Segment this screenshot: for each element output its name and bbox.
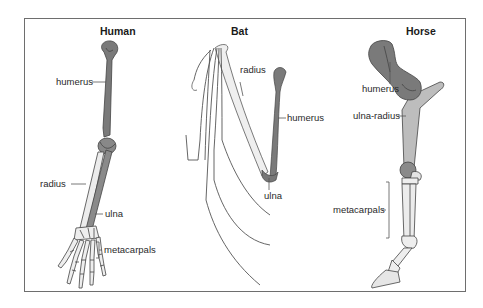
- bat-wing: [186, 45, 286, 285]
- forelimb-homology-illustration: [0, 0, 483, 308]
- human-humerus: [102, 41, 118, 137]
- label-human-ulna: ulna: [105, 208, 123, 219]
- panel-title-horse: Horse: [406, 25, 436, 37]
- label-human-metacarpals: metacarpals: [104, 244, 156, 255]
- label-bat-ulna: ulna: [264, 190, 282, 201]
- panel-title-human: Human: [100, 25, 136, 37]
- horse-leg: [369, 41, 444, 288]
- label-human-radius: radius: [40, 178, 66, 189]
- horse-hoof: [372, 270, 400, 288]
- label-bat-radius: radius: [240, 64, 266, 75]
- label-horse-ulna-radius: ulna-radius: [353, 110, 400, 121]
- horse-metacarpal: [402, 184, 416, 240]
- label-human-humerus: humerus: [56, 76, 93, 87]
- panel-title-bat: Bat: [231, 25, 248, 37]
- label-bat-humerus: humerus: [287, 112, 324, 123]
- label-horse-metacarpals: metacarpals: [333, 204, 385, 215]
- bat-humerus: [270, 68, 286, 179]
- label-horse-humerus: humerus: [362, 83, 399, 94]
